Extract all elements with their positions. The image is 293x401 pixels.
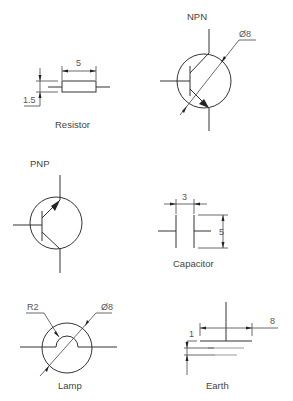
lamp-label: Lamp [58,380,82,391]
earth-width-dim: 8 [270,316,275,326]
npn-transistor-symbol: NPN Ø8 [160,11,256,131]
resistor-length-dim: 5 [76,58,81,68]
lamp-diameter-dim: Ø8 [101,302,113,312]
earth-label: Earth [206,380,229,391]
capacitor-symbol: 3 5 Capacitor [158,192,228,269]
lamp-symbol: R2 Ø8 Lamp [20,302,117,391]
resistor-label: Resistor [55,119,90,130]
npn-diameter-dim: Ø8 [239,29,251,39]
npn-label: NPN [187,11,207,22]
lamp-radius-dim: R2 [27,302,39,312]
resistor-symbol: 5 1.5 Resistor [23,58,110,130]
earth-symbol: 8 1 Earth [184,302,278,391]
electrical-symbols-drawing: 5 1.5 Resistor NPN Ø8 PNP [0,0,293,401]
pnp-label: PNP [30,158,50,169]
pnp-transistor-symbol: PNP [13,158,82,273]
capacitor-gap-dim: 3 [182,192,187,202]
capacitor-label: Capacitor [173,258,214,269]
resistor-height-dim: 1.5 [23,95,36,105]
earth-spacing-dim: 1 [189,329,194,339]
capacitor-height-dim: 5 [219,227,224,237]
